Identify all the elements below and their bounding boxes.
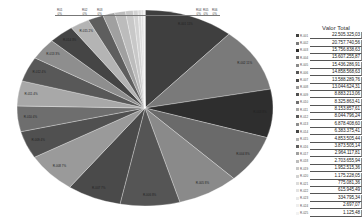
top-slice-label: R020% <box>82 9 88 16</box>
legend-key: R-008 <box>296 85 310 89</box>
legend-value: 8.325.863,41 <box>310 99 362 106</box>
legend-key: R-010 <box>296 100 310 104</box>
legend-row: R-00122.505.325,03 <box>296 32 362 39</box>
legend-value: 775.081,36 <box>310 180 362 187</box>
legend-row: R-0146.383.375,41 <box>296 128 362 135</box>
legend-key: R-022 <box>296 189 310 193</box>
slice-label: R-001 11% <box>178 22 193 26</box>
legend-key-label: R-012 <box>300 115 308 119</box>
legend-value: 334.795,34 <box>310 195 362 202</box>
legend-value: 8.153.857,61 <box>310 106 362 113</box>
legend-swatch-icon <box>296 189 299 192</box>
legend-swatch-icon <box>296 34 299 37</box>
legend-key-label: R-001 <box>300 34 308 38</box>
legend-row: R-00315.756.838,63 <box>296 47 362 54</box>
legend-row: R-00713.588.289,76 <box>296 76 362 83</box>
top-slice-label: R060% <box>212 9 218 16</box>
slice-label: R-008 7% <box>53 164 67 168</box>
legend-row: R-0182.703.655,94 <box>296 158 362 165</box>
legend-key-label: R-010 <box>300 100 308 104</box>
legend-key-label: R-019 <box>300 167 308 171</box>
legend-row: R-00813.044.624,31 <box>296 84 362 91</box>
legend-swatch-icon <box>296 123 299 126</box>
legend-swatch-icon <box>296 167 299 170</box>
legend-swatch-icon <box>296 86 299 89</box>
legend-key: R-016 <box>296 145 310 149</box>
legend-key-label: R-006 <box>300 71 308 75</box>
legend-swatch-icon <box>296 64 299 67</box>
slice-label: R-010 4% <box>24 115 38 119</box>
legend-key-label: R-020 <box>300 174 308 178</box>
legend-key-label: R-015 <box>300 137 308 141</box>
legend-swatch-icon <box>296 49 299 52</box>
legend-swatch-icon <box>296 115 299 118</box>
legend-row: R-0172.964.117,81 <box>296 150 362 157</box>
slice-label: R-015 2% <box>80 29 94 33</box>
legend-row: R-0191.952.515,36 <box>296 165 362 172</box>
legend-swatch-icon <box>296 42 299 45</box>
legend-value: 2.697,07 <box>310 202 362 209</box>
legend-key: R-006 <box>296 71 310 75</box>
legend-key-label: R-011 <box>300 108 308 112</box>
legend-key: R-015 <box>296 137 310 141</box>
legend-key-label: R-022 <box>300 189 308 193</box>
legend-key-label: R-013 <box>300 122 308 126</box>
legend-value: 1.175.228,05 <box>310 173 362 180</box>
legend-row: R-0163.873.505,14 <box>296 143 362 150</box>
legend-swatch-icon <box>296 197 299 200</box>
slice-label: R-007 7% <box>92 186 106 190</box>
legend-key: R-020 <box>296 174 310 178</box>
legend-swatch-icon <box>296 79 299 82</box>
legend-value: 4.853.505,44 <box>310 136 362 143</box>
slice-label: R-013 3% <box>46 52 60 56</box>
legend-key-label: R-009 <box>300 93 308 97</box>
legend-swatch-icon <box>296 138 299 141</box>
legend-row: R-00614.858.568,63 <box>296 69 362 76</box>
slice-label: R-005 8% <box>196 181 210 185</box>
legend-row: R-0098.883.213,06 <box>296 91 362 98</box>
legend-row: R-00515.436.286,91 <box>296 62 362 69</box>
legend-key: R-024 <box>296 204 310 208</box>
legend-value: 8.044.796,24 <box>310 113 362 120</box>
legend-key-label: R-017 <box>300 152 308 156</box>
legend-key-label: R-014 <box>300 130 308 134</box>
legend-key: R-004 <box>296 56 310 60</box>
pie-chart: R-001 11%R-002 11%R-003 8%R-004 8%R-005 … <box>0 0 290 219</box>
legend-row: R-0128.044.796,24 <box>296 113 362 120</box>
legend-swatch-icon <box>296 130 299 133</box>
legend-value: 615.945,49 <box>310 187 362 194</box>
legend-row: R-0242.697,07 <box>296 202 362 209</box>
pie-svg: R-001 11%R-002 11%R-003 8%R-004 8%R-005 … <box>0 0 290 219</box>
legend-key: R-005 <box>296 63 310 67</box>
slice-label: R-009 4% <box>32 138 46 142</box>
legend-key-label: R-002 <box>300 41 308 45</box>
slice-label: R-011 4% <box>25 92 38 96</box>
legend-key: R-012 <box>296 115 310 119</box>
legend-row: R-0251.125,48 <box>296 209 362 216</box>
legend-key: R-003 <box>296 48 310 52</box>
legend-key-label: R-023 <box>300 196 308 200</box>
slice-label: R-006 8% <box>143 193 157 197</box>
legend-swatch-icon <box>296 101 299 104</box>
legend-value: 15.756.838,63 <box>310 47 362 54</box>
legend-swatch-icon <box>296 182 299 185</box>
legend-swatch-icon <box>296 212 299 215</box>
slice-label: R-004 8% <box>236 152 250 156</box>
legend-value: 20.757.740,56 <box>310 40 362 47</box>
legend-rows: R-00122.505.325,03R-00220.757.740,56R-00… <box>296 32 362 217</box>
legend-key: R-007 <box>296 78 310 82</box>
legend-key-label: R-024 <box>300 204 308 208</box>
legend-swatch-icon <box>296 56 299 59</box>
legend-row: R-0154.853.505,44 <box>296 135 362 142</box>
slice-label: R-012 4% <box>33 70 47 74</box>
legend-value: 6.383.375,41 <box>310 128 362 135</box>
slice-label: R-002 11% <box>237 61 252 65</box>
legend-key-label: R-007 <box>300 78 308 82</box>
legend-swatch-icon <box>296 71 299 74</box>
legend-value: 2.703.655,94 <box>310 158 362 165</box>
legend-value: 2.964.117,81 <box>310 150 362 157</box>
legend-title: Valor Total <box>310 24 362 32</box>
legend-row: R-00415.607.255,87 <box>296 54 362 61</box>
legend-row: R-023334.795,34 <box>296 195 362 202</box>
legend-value: 15.607.255,87 <box>310 54 362 61</box>
